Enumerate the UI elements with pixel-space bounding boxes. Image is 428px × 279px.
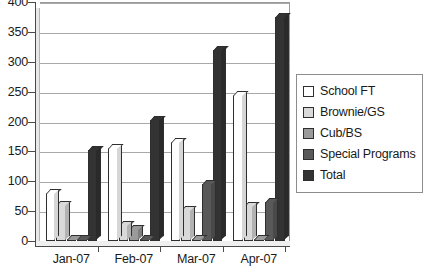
x-axis-tick-label: Apr-07: [228, 252, 291, 267]
y-axis-tick-label: 0: [0, 235, 28, 247]
legend-item: School FT: [303, 81, 417, 102]
bar-side-face: [221, 46, 226, 240]
y-axis-tick-mark: [28, 181, 35, 182]
y-axis-tick-mark: [28, 211, 35, 212]
y-axis-tick-label: 400: [0, 0, 28, 8]
y-axis-tick-label: 350: [0, 26, 28, 38]
bar-side-face: [159, 116, 164, 240]
chart-legend: School FTBrownie/GSCub/BSSpecial Program…: [296, 74, 423, 193]
legend-label: School FT: [320, 85, 375, 98]
bar-side-face: [54, 190, 59, 240]
legend-swatch-icon: [303, 86, 314, 97]
bar-side-face: [273, 199, 278, 240]
bar: [233, 95, 243, 241]
bar: [108, 148, 118, 241]
bar-side-face: [242, 91, 247, 240]
legend-label: Special Programs: [320, 148, 415, 161]
y-axis-tick-label: 200: [0, 116, 28, 128]
bar-side-face: [211, 181, 216, 240]
bar-side-face: [96, 146, 101, 240]
y-axis-labels: 400350300250200150100500: [0, 0, 28, 243]
x-axis-tick-mark: [160, 247, 161, 252]
bar: [67, 239, 77, 241]
y-axis-tick-mark: [28, 62, 35, 63]
bar: [192, 239, 202, 241]
y-axis-tick-label: 300: [0, 56, 28, 68]
x-axis-tick-label: Mar-07: [165, 252, 228, 267]
bar: [150, 120, 160, 241]
x-axis-tick-mark: [223, 247, 224, 252]
legend-label: Total: [320, 169, 345, 182]
legend-label: Cub/BS: [320, 127, 362, 140]
bar-side-face: [190, 206, 195, 240]
bar: [88, 150, 98, 241]
bar: [77, 239, 87, 241]
legend-item: Special Programs: [303, 144, 417, 165]
bar-side-face: [252, 203, 257, 240]
y-axis-tick-mark: [28, 241, 35, 242]
x-axis-tick-label: Jan-07: [40, 252, 103, 267]
bar-side-face: [117, 145, 122, 240]
bars-layer: [40, 2, 290, 241]
bar-chart: 400350300250200150100500 Jan-07Feb-07Mar…: [0, 0, 428, 279]
legend-item: Total: [303, 165, 417, 186]
y-axis-tick-mark: [28, 32, 35, 33]
legend-item: Brownie/GS: [303, 102, 417, 123]
y-axis-tick-mark: [28, 151, 35, 152]
bar-side-face: [179, 139, 184, 240]
y-axis-tick-mark: [28, 2, 35, 3]
x-axis-line: [35, 246, 290, 247]
bar: [171, 142, 181, 241]
y-axis-tick-mark: [28, 92, 35, 93]
bar-side-face: [284, 13, 289, 240]
legend-swatch-icon: [303, 149, 314, 160]
legend-swatch-icon: [303, 170, 314, 181]
bar: [140, 239, 150, 241]
legend-label: Brownie/GS: [320, 106, 385, 119]
bar: [46, 193, 56, 241]
legend-swatch-icon: [303, 107, 314, 118]
bar-side-face: [65, 202, 70, 240]
bar: [202, 184, 212, 241]
y-axis-tick-marks: [28, 0, 35, 243]
y-axis-tick-label: 150: [0, 145, 28, 157]
legend-item: Cub/BS: [303, 123, 417, 144]
y-axis-line: [35, 2, 36, 247]
y-axis-tick-label: 250: [0, 86, 28, 98]
y-axis-tick-mark: [28, 122, 35, 123]
x-axis-tick-label: Feb-07: [103, 252, 166, 267]
y-axis-tick-label: 50: [0, 205, 28, 217]
bar: [254, 239, 264, 241]
x-axis-tick-mark: [98, 247, 99, 252]
x-axis-tick-mark: [285, 247, 286, 252]
x-axis-labels: Jan-07Feb-07Mar-07Apr-07: [35, 252, 290, 272]
y-axis-tick-label: 100: [0, 175, 28, 187]
legend-swatch-icon: [303, 128, 314, 139]
